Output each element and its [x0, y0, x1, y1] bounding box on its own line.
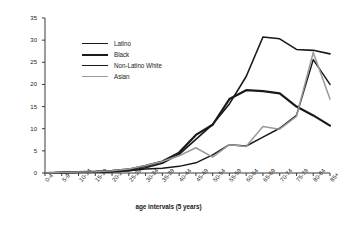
legend-label: Latino — [114, 40, 131, 47]
legend-swatch-icon — [82, 76, 108, 77]
legend-swatch-icon — [82, 54, 108, 56]
legend-item-black: Black — [82, 49, 162, 60]
x-axis-title: age intervals (5 years) — [0, 203, 337, 210]
legend-item-latino: Latino — [82, 38, 162, 49]
legend-item-non-latino-white: Non-Latino White — [82, 60, 162, 71]
legend-label: Black — [114, 51, 129, 58]
legend-swatch-icon — [82, 43, 108, 44]
legend-label: Asian — [114, 73, 130, 80]
chart-legend: LatinoBlackNon-Latino WhiteAsian — [82, 38, 162, 82]
series-line-black — [45, 90, 330, 173]
legend-label: Non-Latino White — [114, 62, 162, 69]
legend-item-asian: Asian — [82, 71, 162, 82]
legend-swatch-icon — [82, 65, 108, 66]
